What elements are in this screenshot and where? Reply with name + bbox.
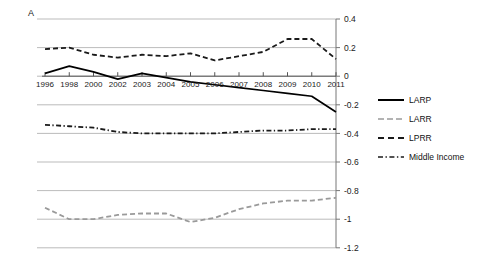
legend-item-larp[interactable]: LARP xyxy=(378,92,486,108)
xtick-label-1998: 1998 xyxy=(60,80,78,89)
legend-item-larr[interactable]: LARR xyxy=(378,111,486,127)
series-line-lprr xyxy=(45,39,336,60)
legend-label-middle-income: Middle Income xyxy=(409,152,464,162)
ytick-label-neg1.2: -1.2 xyxy=(344,243,359,253)
legend-key-lprr xyxy=(378,132,404,144)
legend-label-lprr: LPRR xyxy=(409,133,432,143)
xtick-label-2010: 2010 xyxy=(303,80,321,89)
gridlines-group xyxy=(37,19,336,248)
ytick-label-0.4: 0.4 xyxy=(344,14,356,24)
xtick-label-2007: 2007 xyxy=(230,80,248,89)
legend-item-lprr[interactable]: LPRR xyxy=(378,130,486,146)
xtick-label-2002: 2002 xyxy=(109,80,127,89)
series-line-middle-income xyxy=(45,125,336,134)
series-group xyxy=(45,39,336,222)
xtick-label-2011: 2011 xyxy=(327,80,345,89)
ytick-label-0.2: 0.2 xyxy=(344,43,356,53)
chart-figure: A 19961998200020022003200420052006200720… xyxy=(0,0,489,257)
xtick-label-2003: 2003 xyxy=(133,80,151,89)
ytick-label-neg1: -1 xyxy=(344,214,352,224)
legend-item-middle-income[interactable]: Middle Income xyxy=(378,149,486,165)
xtick-label-2005: 2005 xyxy=(182,80,200,89)
xtick-labels-group: 1996199820002002200320042005200620072008… xyxy=(36,80,345,89)
ytick-label-neg0.6: -0.6 xyxy=(344,157,359,167)
ytick-labels-group: 0.40.20-0.2-0.4-0.6-0.8-1-1.2 xyxy=(344,14,359,253)
chart-legend: LARP LARR LPRR Middle Income xyxy=(378,92,486,168)
xtick-label-2008: 2008 xyxy=(254,80,272,89)
xtick-label-1996: 1996 xyxy=(36,80,54,89)
ytick-label-neg0.4: -0.4 xyxy=(344,129,359,139)
legend-label-larp: LARP xyxy=(409,95,431,105)
xtick-label-2004: 2004 xyxy=(157,80,175,89)
ytick-label-0: 0 xyxy=(344,71,349,81)
ytick-label-neg0.2: -0.2 xyxy=(344,100,359,110)
xtick-label-2009: 2009 xyxy=(279,80,297,89)
ytick-label-neg0.8: -0.8 xyxy=(344,186,359,196)
legend-label-larr: LARR xyxy=(409,114,432,124)
legend-key-larp xyxy=(378,94,404,106)
xtick-label-2000: 2000 xyxy=(85,80,103,89)
legend-key-larr xyxy=(378,113,404,125)
series-line-larr xyxy=(45,198,336,222)
legend-key-middle-income xyxy=(378,151,404,163)
xtick-label-2006: 2006 xyxy=(206,80,224,89)
